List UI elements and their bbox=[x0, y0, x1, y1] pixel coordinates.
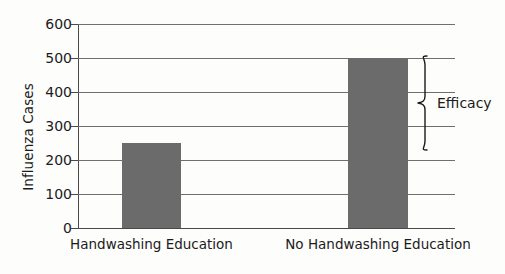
y-axis-tick-label: 200 bbox=[32, 152, 72, 168]
y-axis-tick-label: 600 bbox=[32, 16, 72, 32]
efficacy-brace-icon bbox=[414, 55, 436, 151]
gridline bbox=[78, 228, 455, 229]
y-axis-tick-mark bbox=[71, 194, 78, 195]
y-axis-tick-label: 400 bbox=[32, 84, 72, 100]
y-axis-tick-label: 500 bbox=[32, 50, 72, 66]
bar bbox=[122, 143, 181, 228]
y-axis-tick-mark bbox=[71, 126, 78, 127]
plot-area bbox=[78, 24, 455, 228]
gridline bbox=[78, 24, 455, 25]
y-axis-tick-labels: 0100200300400500600 bbox=[30, 0, 72, 274]
y-axis-tick-label: 300 bbox=[32, 118, 72, 134]
bar-chart-figure: Influenza Cases 0100200300400500600 Hand… bbox=[0, 0, 505, 274]
y-axis-tick-mark bbox=[71, 160, 78, 161]
y-axis-tick-mark bbox=[71, 92, 78, 93]
y-axis-tick-mark bbox=[71, 58, 78, 59]
y-axis-tick-mark bbox=[71, 24, 78, 25]
y-axis-tick-label: 0 bbox=[32, 220, 72, 236]
y-axis-tick-label: 100 bbox=[32, 186, 72, 202]
y-axis-tick-mark bbox=[71, 228, 78, 229]
x-axis-category-label: No Handwashing Education bbox=[285, 236, 470, 252]
x-axis-category-label: Handwashing Education bbox=[70, 236, 233, 252]
bar bbox=[348, 58, 408, 228]
efficacy-annotation-label: Efficacy bbox=[437, 95, 492, 111]
